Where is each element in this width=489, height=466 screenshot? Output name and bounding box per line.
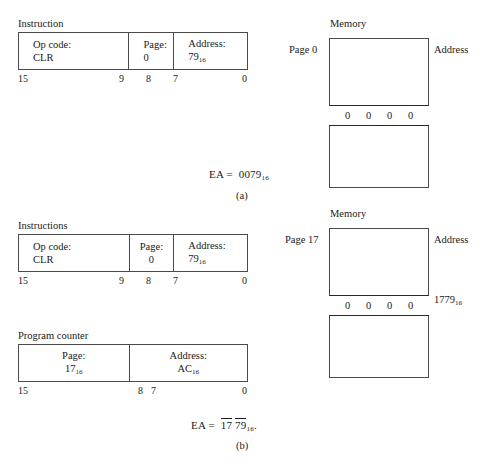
bit-tick-8-b: 8 [146, 274, 151, 287]
instruction-field-address-a: Address: 7916 [173, 33, 247, 69]
bit-tick-7-a: 7 [173, 72, 178, 85]
pc-bit-tick-7: 7 [151, 384, 156, 397]
opcode-label-b: Op code: [33, 240, 129, 253]
bit-tick-8-a: 8 [146, 72, 151, 85]
memory-cell-2-b: 0 [387, 300, 392, 311]
instruction-field-page-b: Page: 0 [129, 235, 174, 271]
program-counter-heading: Program counter [18, 330, 88, 342]
memory-page-label-a: Page 0 [289, 44, 317, 56]
memory-cell-2-a: 0 [387, 110, 392, 121]
memory-cell-1-b: 0 [366, 300, 371, 311]
pc-bit-tick-0: 0 [242, 384, 247, 397]
ea-prefix-a: EA = [209, 168, 233, 180]
instruction-heading-a: Instruction [18, 18, 64, 30]
program-counter-box: Page: 1716 Address: AC16 [18, 344, 248, 382]
instruction-word-box-a: Op code: CLR Page: 0 Address: 7916 [18, 32, 248, 70]
instruction-field-address-b: Address: 7916 [173, 235, 247, 271]
bit-tick-7-b: 7 [173, 274, 178, 287]
page-value-b: 0 [149, 253, 154, 266]
bit-ruler-pc: 15 8 7 0 [18, 384, 248, 397]
memory-highlight-row-b: 0 0 0 0 [329, 295, 429, 316]
memory-heading-a: Memory [330, 18, 366, 30]
memory-address-label-b: Address [434, 234, 468, 246]
ea-value-b: 17 7916. [218, 419, 257, 431]
part-label-a: (a) [236, 190, 248, 201]
memory-highlight-row-a: 0 0 0 0 [329, 105, 429, 126]
ea-prefix-b: EA = [191, 419, 215, 431]
opcode-label-a: Op code: [33, 38, 128, 51]
bit-tick-0-b: 0 [242, 274, 247, 287]
address-value-a: 7916 [188, 50, 247, 65]
address-label-a: Address: [188, 37, 247, 50]
pc-bit-tick-15: 15 [18, 384, 28, 397]
ea-overline-part1: 17 [221, 418, 232, 431]
pc-bit-tick-8: 8 [138, 384, 143, 397]
page-value-a: 0 [143, 51, 173, 64]
ea-expression-a: EA = 007916 [209, 168, 269, 180]
address-label-b: Address: [188, 239, 247, 252]
address-value-b: 7916 [188, 252, 247, 267]
instruction-heading-b: Instructions [18, 220, 68, 232]
instruction-word-box-b: Op code: CLR Page: 0 Address: 7916 [18, 234, 248, 272]
memory-box-a: 0 0 0 0 [329, 38, 429, 188]
bit-tick-15-b: 15 [18, 274, 28, 287]
figure-root: Instruction Op code: CLR Page: 0 Address… [0, 0, 489, 466]
memory-page-label-b: Page 17 [285, 234, 319, 246]
memory-cell-1-a: 0 [366, 110, 371, 121]
bit-tick-0-a: 0 [242, 72, 247, 85]
memory-box-b: 0 0 0 0 [329, 228, 429, 378]
memory-cell-3-a: 0 [408, 110, 413, 121]
bit-tick-15-a: 15 [18, 72, 28, 85]
bit-tick-9-a: 9 [119, 72, 124, 85]
pc-page-value: 1716 [65, 362, 83, 377]
memory-address-label-a: Address [434, 44, 468, 56]
ea-overline-part2: 79 [235, 418, 246, 431]
memory-row-address-b: 177916 [434, 294, 462, 307]
memory-heading-b: Memory [330, 208, 366, 220]
page-label-b: Page: [140, 240, 163, 253]
part-label-b: (b) [236, 440, 248, 451]
memory-cell-0-b: 0 [345, 300, 350, 311]
bit-ruler-a: 15 9 8 7 0 [18, 72, 248, 85]
instruction-field-page-a: Page: 0 [128, 33, 173, 69]
memory-cell-3-b: 0 [408, 300, 413, 311]
page-label-a: Page: [143, 38, 173, 51]
opcode-value-a: CLR [33, 51, 128, 64]
instruction-field-opcode-a: Op code: CLR [19, 33, 128, 69]
memory-cell-0-a: 0 [345, 110, 350, 121]
ea-expression-b: EA = 17 7916. [191, 418, 257, 431]
pc-address-value: AC16 [177, 362, 199, 377]
pc-page-label: Page: [62, 349, 85, 362]
pc-field-page: Page: 1716 [19, 345, 129, 381]
ea-value-a: 007916 [236, 168, 269, 180]
pc-address-label: Address: [170, 349, 207, 362]
pc-field-address: Address: AC16 [129, 345, 247, 381]
opcode-value-b: CLR [33, 253, 129, 266]
bit-ruler-b: 15 9 8 7 0 [18, 274, 248, 287]
bit-tick-9-b: 9 [119, 274, 124, 287]
instruction-field-opcode-b: Op code: CLR [19, 235, 129, 271]
